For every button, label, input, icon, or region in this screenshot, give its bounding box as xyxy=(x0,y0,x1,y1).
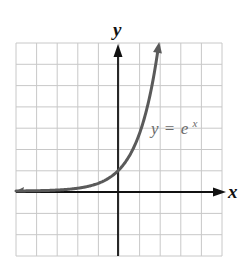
curve-label: y = e x xyxy=(149,117,197,138)
x-axis-arrow-icon xyxy=(213,188,226,197)
y-axis-arrow-icon xyxy=(114,44,123,57)
grid xyxy=(16,43,222,256)
curve-label-e: e xyxy=(181,119,189,138)
chart: y x y = e x xyxy=(0,0,249,270)
curve-exp xyxy=(16,51,158,191)
curve-label-eq: = xyxy=(165,119,175,138)
x-axis-label: x xyxy=(227,181,238,202)
curve-label-y: y xyxy=(149,119,159,138)
curve-label-exp: x xyxy=(191,117,197,129)
y-axis-label: y xyxy=(111,19,122,40)
x-axis xyxy=(16,188,226,197)
